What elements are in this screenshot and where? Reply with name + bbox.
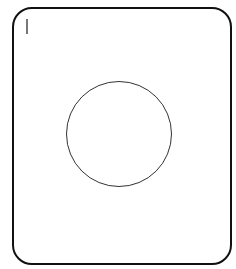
circle-shape [66,81,172,187]
cursor-marker-icon [26,19,28,34]
